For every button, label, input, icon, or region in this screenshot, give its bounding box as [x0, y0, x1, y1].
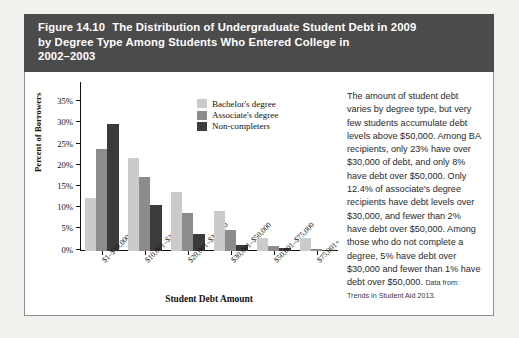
y-axis-tick-label: 15%	[57, 181, 73, 191]
legend-label-bachelors: Bachelor's degree	[212, 99, 276, 109]
y-axis-tick-label: 25%	[57, 139, 73, 149]
caption-text: The amount of student debt varies by deg…	[347, 90, 481, 303]
bar-1-1	[139, 177, 150, 251]
legend-label-associates: Associate's degree	[212, 110, 278, 120]
y-axis-tick	[76, 164, 80, 165]
y-axis-tick	[76, 121, 80, 122]
legend-swatch-icon-bachelors	[197, 99, 207, 108]
legend-label-non-completers: Non-completers	[212, 121, 270, 131]
bar-0-1	[128, 158, 139, 251]
legend-item-bachelors: Bachelor's degree	[197, 98, 278, 109]
y-axis-tick	[76, 143, 80, 144]
y-axis-tick-label: 35%	[57, 96, 73, 106]
figure-header-band: Figure 14.10The Distribution of Undergra…	[24, 14, 494, 72]
x-axis-title: Student Debt Amount	[80, 294, 338, 304]
caption-body-text: The amount of student debt varies by deg…	[347, 91, 480, 287]
y-axis-tick-label: 5%	[62, 223, 73, 233]
y-axis-tick	[76, 249, 80, 250]
y-axis-tick	[76, 206, 80, 207]
bar-0-4	[257, 238, 268, 251]
bar-1-0	[96, 149, 107, 251]
figure-number: Figure 14.10	[38, 21, 105, 33]
chart: Percent of Borrowers 0%5%10%15%20%25%30%…	[25, 72, 343, 315]
bar-0-3	[214, 211, 225, 251]
bar-0-5	[300, 238, 311, 251]
figure-caption: The amount of student debt varies by deg…	[347, 90, 481, 303]
bar-1-3	[225, 230, 236, 251]
y-axis-tick-label: 20%	[57, 160, 73, 170]
legend-swatch-icon-non-completers	[197, 122, 207, 131]
y-axis-tick-label: 0%	[62, 245, 73, 255]
legend-item-non-completers: Non-completers	[197, 121, 278, 132]
y-axis-tick	[76, 227, 80, 228]
y-axis-title: Percent of Borrowers	[33, 93, 43, 172]
bar-0-2	[171, 192, 182, 251]
figure-panel: Percent of Borrowers 0%5%10%15%20%25%30%…	[24, 72, 494, 316]
bar-1-2	[182, 213, 193, 251]
figure-title: Figure 14.10The Distribution of Undergra…	[38, 20, 482, 64]
y-axis-tick-label: 10%	[57, 202, 73, 212]
y-axis-tick	[76, 100, 80, 101]
bar-0-0	[85, 198, 96, 251]
chart-legend: Bachelor's degree Associate's degree Non…	[197, 98, 278, 132]
y-axis-tick-label: 30%	[57, 117, 73, 127]
legend-swatch-icon-associates	[197, 111, 207, 120]
y-axis-tick	[76, 185, 80, 186]
figure-container: Figure 14.10The Distribution of Undergra…	[24, 14, 494, 316]
y-axis-line	[80, 82, 81, 251]
legend-item-associates: Associate's degree	[197, 109, 278, 120]
bar-2-0	[107, 124, 118, 251]
